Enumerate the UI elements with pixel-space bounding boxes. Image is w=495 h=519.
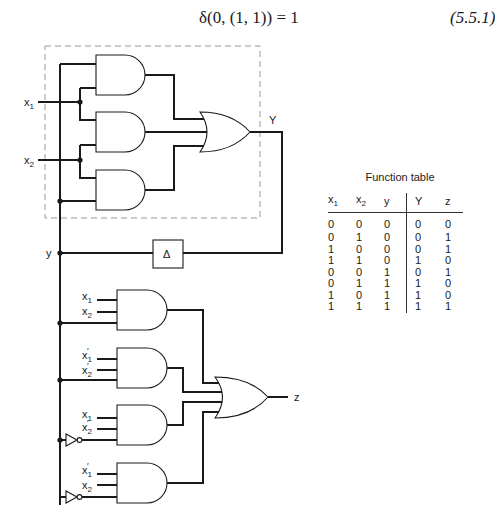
y-junction-dot-upper xyxy=(57,198,62,203)
and-gate-d xyxy=(117,463,167,503)
table-row: 01110 xyxy=(328,278,463,290)
table-row: 10001 xyxy=(328,244,463,256)
inverter-c xyxy=(66,434,77,446)
table-row: 10110 xyxy=(328,290,463,302)
header-z: z xyxy=(445,193,463,213)
delay-symbol: Δ xyxy=(163,248,171,260)
function-table: Function table x1 x2 y Y z 00000 01001 1… xyxy=(328,171,478,313)
and3-to-or-wire xyxy=(145,146,205,190)
and-gate-c xyxy=(117,405,167,445)
and-a-x1-label: x1 xyxy=(82,290,93,305)
table-row: 00000 xyxy=(328,213,463,233)
z-label: z xyxy=(294,391,300,403)
Y-feedback-wire xyxy=(183,132,282,253)
table-row: 11010 xyxy=(328,255,463,267)
and-c-to-or-wire xyxy=(167,402,224,425)
and-gate-b xyxy=(117,348,167,388)
and-gate-2 xyxy=(96,112,145,152)
and-a-to-or-wire xyxy=(167,310,221,383)
function-table-title: Function table xyxy=(322,171,478,183)
Y-label: Y xyxy=(269,114,277,126)
header-Y: Y xyxy=(407,193,446,213)
and-gate-1 xyxy=(96,55,145,95)
inverter-d xyxy=(66,491,77,503)
x1-branch-wire xyxy=(80,88,96,120)
and-a-x2-label: x2 xyxy=(82,305,93,320)
and1-to-or-wire xyxy=(145,75,205,119)
table-row: 01001 xyxy=(328,232,463,244)
header-x2: x2 xyxy=(356,193,384,213)
table-row: 00101 xyxy=(328,267,463,279)
table-header-row: x1 x2 y Y z xyxy=(328,193,463,213)
x2-junction-dot xyxy=(77,157,82,162)
and-gate-3 xyxy=(96,170,145,210)
x1-label: x1 xyxy=(24,96,35,111)
and-gate-a xyxy=(117,290,167,330)
and-c-input-wires xyxy=(97,418,117,429)
function-table-grid: x1 x2 y Y z 00000 01001 10001 11010 0010… xyxy=(328,193,463,313)
header-x1: x1 xyxy=(328,193,356,213)
or-gate-lower xyxy=(215,377,268,418)
x1-junction-dot xyxy=(77,99,82,104)
and-d-to-or-wire xyxy=(167,412,221,483)
header-y: y xyxy=(384,193,407,213)
and-b-to-or-wire xyxy=(167,368,224,392)
y-junction-dot-a xyxy=(57,320,62,325)
and-d-x1prime-label: x1′ xyxy=(82,461,93,479)
or-gate-upper xyxy=(200,112,250,152)
and-d-x2-label: x2 xyxy=(82,479,93,494)
x2-branch-wire xyxy=(80,145,96,178)
y-junction-dot-c xyxy=(57,437,62,442)
inverter-c-bubble xyxy=(77,438,82,443)
inverter-d-bubble xyxy=(77,495,82,500)
table-row: 11111 xyxy=(328,301,463,313)
y-junction-dot-b xyxy=(57,377,62,382)
x2-label: x2 xyxy=(24,154,35,169)
and-d-input-wires xyxy=(97,474,117,485)
y-label: y xyxy=(46,247,52,259)
y-junction-dot xyxy=(57,250,62,255)
